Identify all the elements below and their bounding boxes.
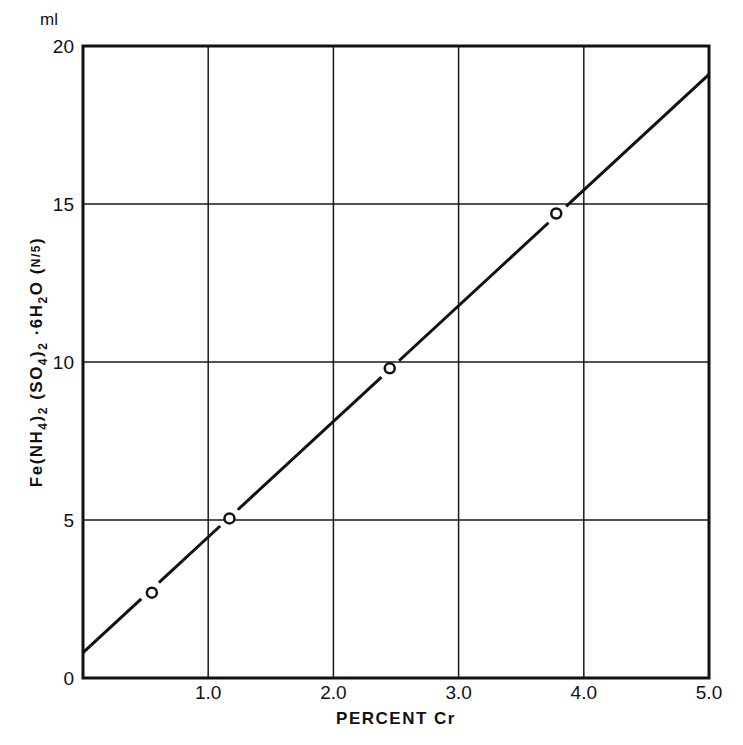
fit-line-segment — [238, 377, 382, 510]
y-tick-label: 0 — [63, 668, 74, 689]
data-point-marker — [224, 513, 234, 523]
fit-line-segment — [159, 526, 220, 583]
data-point-marker — [551, 208, 561, 218]
x-tick-label: 2.0 — [320, 682, 346, 703]
y-tick-labels: 05101520 — [53, 36, 74, 689]
chart: 1.02.03.04.05.0 05101520 ml PERCENT Cr F… — [0, 0, 743, 745]
data-point-marker — [147, 588, 157, 598]
y-axis-title: Fe(NH4)2 (SO4)2 ·6H2O (N/5) — [27, 237, 50, 487]
y-tick-label: 10 — [53, 352, 74, 373]
fit-line-segment — [83, 599, 141, 653]
x-axis-title: PERCENT Cr — [336, 709, 456, 728]
y-tick-label: 5 — [63, 510, 74, 531]
fit-line-segment — [566, 74, 709, 206]
x-tick-label: 4.0 — [571, 682, 597, 703]
x-tick-label: 1.0 — [195, 682, 221, 703]
grid-lines — [83, 46, 709, 678]
fit-line — [83, 74, 709, 652]
x-tick-label: 3.0 — [445, 682, 471, 703]
y-tick-label: 15 — [53, 194, 74, 215]
data-point-marker — [385, 363, 395, 373]
x-tick-label: 5.0 — [696, 682, 722, 703]
y-unit-label: ml — [40, 10, 58, 29]
fit-line-segment — [399, 223, 548, 361]
y-tick-label: 20 — [53, 36, 74, 57]
x-tick-labels: 1.02.03.04.05.0 — [195, 682, 722, 703]
